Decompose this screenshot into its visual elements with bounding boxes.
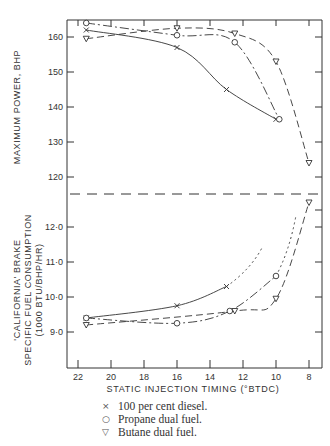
- x-tick-label: 8: [306, 372, 311, 382]
- y-tick-label: 9·0: [50, 327, 63, 337]
- series-line: [86, 203, 309, 326]
- legend-item-propane: ○ Propane dual fuel.: [102, 413, 207, 426]
- circle-marker-icon: ○: [102, 413, 118, 426]
- cross-marker-icon: [175, 45, 180, 50]
- y-tick-label: 140: [48, 102, 63, 112]
- triangle-marker-icon: [273, 59, 279, 65]
- y-tick-label: 160: [48, 32, 63, 42]
- x-axis-label: STATIC INJECTION TIMING (°BTDC): [107, 384, 280, 394]
- x-tick-label: 10: [271, 372, 281, 382]
- series-extrapolation: [276, 217, 296, 277]
- x-tick-label: 12: [238, 372, 248, 382]
- cross-marker-icon: [224, 284, 229, 289]
- triangle-marker-icon: [232, 31, 238, 37]
- legend-label: Butane dual fuel.: [118, 426, 197, 439]
- legend-item-diesel: × 100 per cent diesel.: [102, 400, 207, 413]
- series-line: [86, 287, 226, 319]
- circle-marker-icon: [83, 20, 89, 26]
- tick-labels: 22201816141210816015014013012012·011·010…: [45, 32, 312, 382]
- legend: × 100 per cent diesel. ○ Propane dual fu…: [102, 400, 207, 439]
- series-line: [86, 28, 309, 163]
- legend-label: 100 per cent diesel.: [118, 400, 207, 413]
- cross-marker-icon: ×: [102, 400, 118, 413]
- lower-y-axis-label-2: SPECIFIC FUEL CONSUMPTION: [23, 214, 33, 366]
- data-series: [86, 23, 309, 325]
- y-tick-label: 130: [48, 137, 63, 147]
- x-tick-label: 20: [106, 372, 116, 382]
- circle-marker-icon: [273, 273, 279, 279]
- series-line: [86, 30, 276, 119]
- triangle-marker-icon: [306, 161, 312, 167]
- x-tick-label: 22: [73, 372, 83, 382]
- series-line: [86, 276, 276, 323]
- lower-y-axis-label-1: 'CALIFORNIA' BRAKE: [12, 239, 22, 340]
- triangle-marker-icon: [273, 296, 279, 302]
- legend-label: Propane dual fuel.: [118, 413, 202, 426]
- circle-marker-icon: [174, 32, 180, 38]
- legend-item-butane: ▽ Butane dual fuel.: [102, 426, 207, 439]
- chart-figure: 22201816141210816015014013012012·011·010…: [0, 0, 330, 446]
- cross-marker-icon: [224, 87, 229, 92]
- y-tick-label: 11·0: [46, 257, 63, 267]
- upper-y-axis-label: MAXIMUM POWER, BHP: [12, 50, 22, 164]
- circle-marker-icon: [277, 116, 283, 122]
- circle-marker-icon: [174, 320, 180, 326]
- x-tick-label: 14: [205, 372, 215, 382]
- data-markers: [83, 20, 312, 328]
- series-extrapolation: [227, 246, 263, 286]
- lower-y-axis-label-3: (1000 BTU/BHP/HR): [34, 243, 44, 336]
- triangle-marker-icon: ▽: [102, 426, 118, 439]
- y-tick-label: 120: [48, 172, 63, 182]
- y-tick-label: 10·0: [45, 292, 63, 302]
- x-tick-label: 18: [139, 372, 149, 382]
- y-tick-label: 150: [48, 67, 63, 77]
- circle-marker-icon: [232, 39, 238, 45]
- x-tick-label: 16: [172, 372, 182, 382]
- circle-marker-icon: [83, 315, 89, 321]
- triangle-marker-icon: [306, 200, 312, 206]
- y-tick-label: 12·0: [45, 222, 63, 232]
- triangle-marker-icon: [83, 36, 89, 42]
